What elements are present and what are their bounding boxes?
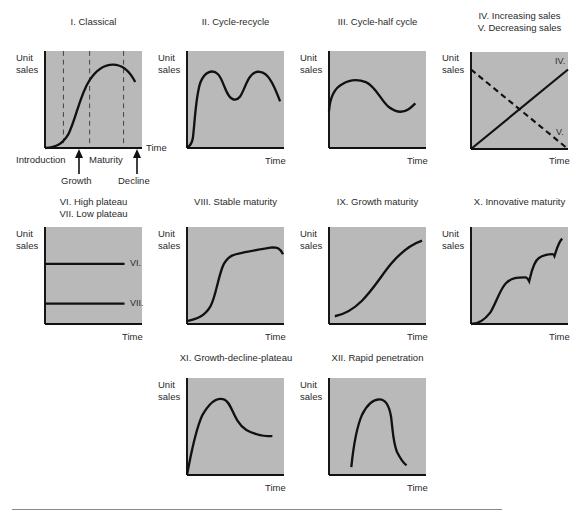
- panel-title-plateau: VI. High plateau VII. Low plateau: [45, 196, 142, 220]
- y-axis-label-line1: Unit: [442, 52, 464, 64]
- y-axis-label: Unit sales: [300, 379, 322, 403]
- series-label-low-plateau: VII.: [130, 298, 144, 308]
- x-axis-label: Time: [265, 155, 286, 167]
- x-axis-label: Time: [407, 482, 428, 494]
- y-axis-label-line1: Unit: [300, 52, 322, 64]
- decline-arrow-icon: [132, 149, 142, 175]
- y-axis-label: Unit sales: [300, 228, 322, 252]
- y-axis-label-line2: sales: [158, 391, 180, 403]
- plot-plateau: [45, 227, 142, 324]
- y-axis-label-line2: sales: [158, 240, 180, 252]
- y-axis-label: Unit sales: [442, 52, 464, 76]
- panel-title-cycle-recycle: II. Cycle-recycle: [187, 16, 284, 28]
- y-axis-label: Unit sales: [16, 52, 38, 76]
- y-axis-label-line1: Unit: [16, 228, 38, 240]
- panel-title-increasing: IV. Increasing sales: [471, 10, 568, 22]
- plot-innovative-maturity: [471, 227, 568, 324]
- series-label-decreasing: V.: [556, 127, 564, 137]
- x-axis-label: Time: [265, 331, 286, 343]
- y-axis-label: Unit sales: [158, 52, 180, 76]
- plot-cycle-half-cycle: [329, 51, 426, 148]
- x-axis-label: Time: [407, 155, 428, 167]
- y-axis-label: Unit sales: [158, 228, 180, 252]
- x-axis-label: Time: [549, 331, 570, 343]
- panel-title-growth-maturity: IX. Growth maturity: [329, 196, 426, 208]
- panel-title-stable-maturity: VIII. Stable maturity: [187, 196, 284, 208]
- y-axis-label-line1: Unit: [300, 228, 322, 240]
- plot-increasing-decreasing: [471, 52, 568, 149]
- x-axis-label: Time: [549, 155, 570, 167]
- bottom-rule-divider: [12, 509, 502, 510]
- y-axis-label-line1: Unit: [158, 52, 180, 64]
- stage-label-growth: Growth: [61, 175, 92, 187]
- y-axis-label: Unit sales: [442, 228, 464, 252]
- y-axis-label-line2: sales: [300, 240, 322, 252]
- plot-stable-maturity: [187, 227, 284, 324]
- panel-title-high-plateau: VI. High plateau: [45, 196, 142, 208]
- y-axis-label-line1: Unit: [442, 228, 464, 240]
- y-axis-label-line1: Unit: [300, 379, 322, 391]
- y-axis-label-line2: sales: [16, 64, 38, 76]
- panel-title-rapid-penetration: XII. Rapid penetration: [329, 352, 426, 364]
- y-axis-label-line2: sales: [442, 64, 464, 76]
- panel-title-increasing-decreasing: IV. Increasing sales V. Decreasing sales: [471, 10, 568, 34]
- panel-title-low-plateau: VII. Low plateau: [45, 208, 142, 220]
- panel-title-classical: I. Classical: [45, 16, 142, 28]
- y-axis-label: Unit sales: [16, 228, 38, 252]
- stage-label-maturity: Maturity: [89, 154, 123, 166]
- x-axis-label: Time: [122, 331, 143, 343]
- panel-title-innovative-maturity: X. Innovative maturity: [471, 196, 568, 208]
- stage-label-introduction: Introduction: [16, 154, 66, 166]
- plot-cycle-recycle: [187, 51, 284, 148]
- y-axis-label-line2: sales: [300, 64, 322, 76]
- series-label-high-plateau: VI.: [130, 258, 141, 268]
- y-axis-label: Unit sales: [300, 52, 322, 76]
- panel-title-growth-decline-plateau: XI. Growth-decline-plateau: [175, 352, 297, 364]
- x-axis-label: Time: [407, 331, 428, 343]
- y-axis-label-line2: sales: [16, 240, 38, 252]
- y-axis-label-line2: sales: [300, 391, 322, 403]
- y-axis-label-line1: Unit: [16, 52, 38, 64]
- series-label-increasing: IV.: [555, 56, 565, 66]
- y-axis-label: Unit sales: [158, 379, 180, 403]
- panel-title-cycle-half-cycle: III. Cycle-half cycle: [329, 16, 426, 28]
- stage-label-decline: Decline: [118, 175, 150, 187]
- y-axis-label-line2: sales: [158, 64, 180, 76]
- plot-growth-decline-plateau: [187, 378, 284, 475]
- plot-growth-maturity: [329, 227, 426, 324]
- plot-classical: [45, 51, 142, 148]
- x-axis-label: Time: [146, 142, 167, 154]
- growth-arrow-icon: [74, 149, 84, 175]
- plot-rapid-penetration: [329, 378, 426, 475]
- x-axis-label: Time: [265, 482, 286, 494]
- y-axis-label-line1: Unit: [158, 379, 180, 391]
- y-axis-label-line2: sales: [442, 240, 464, 252]
- panel-title-decreasing: V. Decreasing sales: [471, 22, 568, 34]
- y-axis-label-line1: Unit: [158, 228, 180, 240]
